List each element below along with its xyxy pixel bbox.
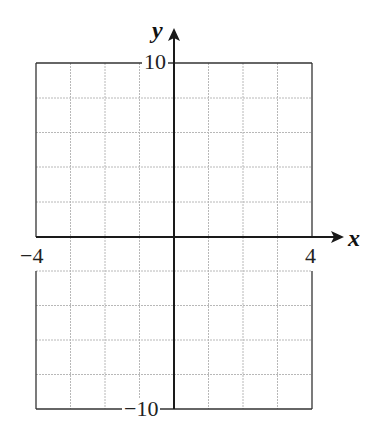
coordinate-grid [0,0,380,435]
y-axis-label: y [152,18,163,42]
x-axis [36,231,344,243]
y-max-label: 10 [142,51,168,73]
y-min-label: −10 [122,398,160,420]
x-min-label: −4 [20,245,43,267]
x-max-label: 4 [305,245,316,267]
x-axis-label: x [348,226,360,250]
y-axis [168,28,180,409]
